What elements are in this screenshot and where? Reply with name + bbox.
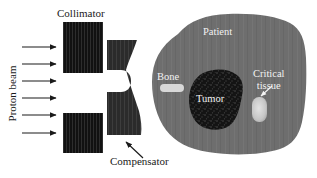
bone-shape (160, 84, 184, 92)
critical-tissue-label-line2: tissue (253, 80, 285, 92)
critical-tissue-shape (252, 97, 267, 122)
collimator (63, 22, 103, 153)
proton-beam-arrows (22, 47, 56, 133)
compensator-shape (107, 40, 141, 135)
tumor-label: Tumor (196, 94, 224, 105)
collimator-block-upper (63, 22, 103, 73)
compensator-label: Compensator (110, 156, 169, 167)
proton-beam-label: Proton beam (7, 61, 18, 127)
critical-tissue-label-line1: Critical (253, 68, 285, 80)
collimator-label: Collimator (57, 8, 105, 19)
bone (160, 84, 184, 92)
collimator-block-lower (63, 113, 103, 153)
proton-therapy-diagram: Collimator Compensator Proton beam Patie… (0, 0, 317, 178)
critical-tissue-label: Critical tissue (253, 68, 285, 92)
bone-label: Bone (157, 72, 179, 83)
compensator (107, 40, 141, 135)
patient-label: Patient (203, 27, 232, 38)
